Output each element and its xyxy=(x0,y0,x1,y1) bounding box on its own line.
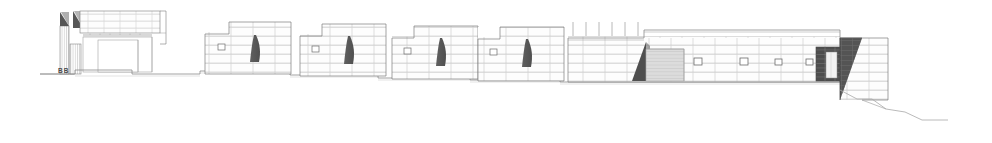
right-tower xyxy=(840,38,888,100)
pavilion-parapet-return xyxy=(160,11,166,44)
architectural-elevation-drawing xyxy=(0,0,992,143)
main-wall-gate-block xyxy=(568,22,840,82)
left-pavilion xyxy=(40,11,166,74)
pavilion-section-pier-inner xyxy=(70,44,81,74)
window-1 xyxy=(694,58,702,65)
wall-segment-3-opening xyxy=(404,48,411,54)
wall-segment-2 xyxy=(298,22,386,76)
section-label-bb: BB xyxy=(58,68,70,75)
wall-segment-4-opening xyxy=(490,49,497,55)
pavilion-glazed-opening xyxy=(98,40,138,72)
wall-segment-2-opening xyxy=(312,46,319,52)
terrain-slope-connector xyxy=(862,100,886,109)
wall-segment-1 xyxy=(203,20,291,74)
wall-segment-3 xyxy=(390,24,478,79)
window-2 xyxy=(740,58,748,65)
window-4 xyxy=(806,59,813,65)
wall-segment-4 xyxy=(476,25,564,81)
window-3 xyxy=(775,59,782,65)
main-gate[interactable] xyxy=(646,49,684,81)
railing-posts xyxy=(569,22,645,38)
elevation-drawing-root: BB xyxy=(0,0,992,143)
dark-recess-light-panel xyxy=(826,52,837,78)
wall-segment-1-opening xyxy=(218,44,225,50)
pavilion-parapet-masonry xyxy=(80,11,160,33)
